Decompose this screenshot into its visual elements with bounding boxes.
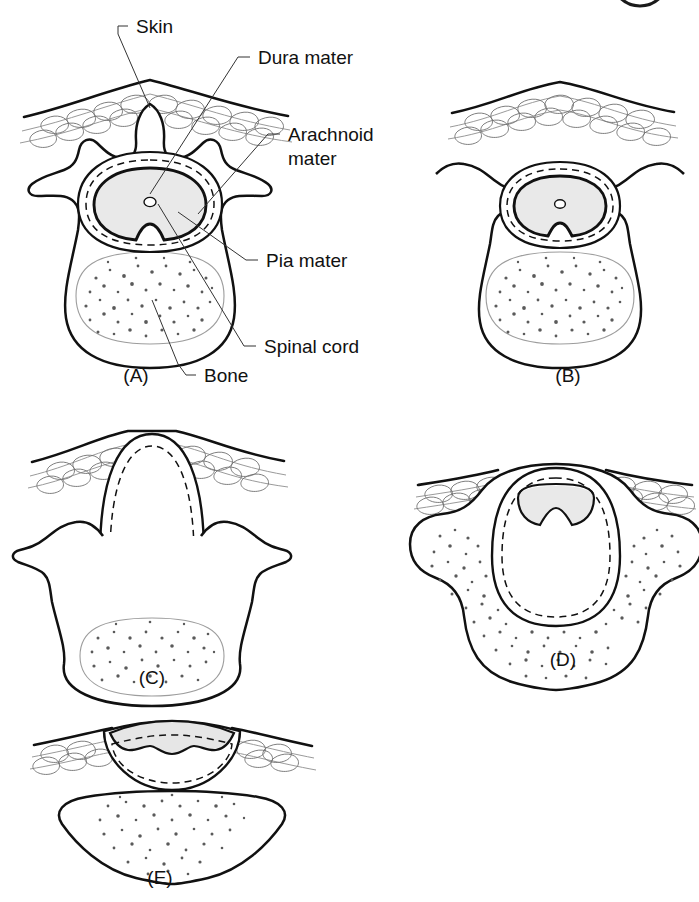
panel-C-vertebra-open-arch bbox=[0, 518, 291, 723]
panel-B-meninges bbox=[500, 162, 620, 248]
callout-arachnoid: Arachnoid bbox=[288, 124, 374, 145]
clipped-circle-arc-icon bbox=[612, 0, 668, 6]
callout-skin: Skin bbox=[136, 16, 173, 37]
callout-dura-mater: Dura mater bbox=[258, 47, 354, 68]
panel-label-E: (E) bbox=[147, 867, 172, 888]
panel-E-neural-plate bbox=[104, 721, 240, 792]
panel-label-A: (A) bbox=[123, 365, 148, 386]
panel-A bbox=[20, 26, 292, 375]
callout-spinal-cord: Spinal cord bbox=[264, 336, 359, 357]
callout-arachnoid-2: mater bbox=[288, 148, 337, 169]
callout-pia-mater: Pia mater bbox=[266, 250, 348, 271]
panel-E bbox=[30, 721, 316, 884]
panel-D-meningeal-sac bbox=[492, 468, 620, 626]
panel-label-D: (D) bbox=[550, 649, 576, 670]
panel-B-skin-layer bbox=[448, 82, 678, 145]
spina-bifida-figure: Skin Dura mater Arachnoid mater Pia mate… bbox=[0, 0, 699, 902]
callout-bone: Bone bbox=[204, 365, 248, 386]
panel-A-meninges bbox=[78, 152, 222, 252]
panel-B bbox=[436, 82, 684, 368]
figure-canvas: Skin Dura mater Arachnoid mater Pia mate… bbox=[0, 0, 699, 902]
panel-label-B: (B) bbox=[555, 365, 580, 386]
panel-label-C: (C) bbox=[139, 667, 165, 688]
